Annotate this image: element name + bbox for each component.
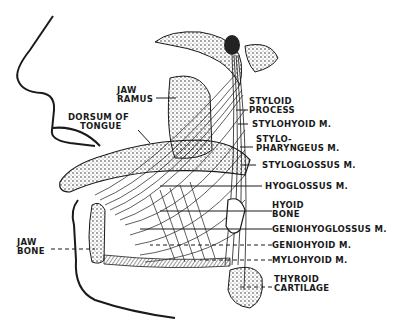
label-line: STYLOGLOSSUS M. [262, 161, 356, 170]
label-hyoglossus: HYOGLOSSUS M. [265, 182, 348, 191]
label-line: TONGUE [68, 122, 129, 131]
label-styloid-process: STYLOID PROCESS [249, 97, 295, 115]
thyroid-cartilage-shape [228, 267, 263, 308]
label-dorsum-of-tongue: DORSUM OF TONGUE [68, 113, 129, 131]
label-line: MYLOHYOID M. [272, 256, 348, 265]
label-line: STYLOHYOID M. [252, 120, 331, 129]
label-line: BONE [272, 210, 304, 219]
label-stylopharyngeus: STYLO- PHARYNGEUS M. [256, 135, 340, 153]
label-hyoid-bone: HYOID BONE [272, 201, 304, 219]
label-line: HYOGLOSSUS M. [265, 182, 348, 191]
label-jaw-bone: JAW BONE [17, 238, 45, 256]
label-mylohyoid: MYLOHYOID M. [272, 256, 348, 265]
label-thyroid-cartilage: THYROID CARTILAGE [274, 275, 329, 293]
label-styloglossus: STYLOGLOSSUS M. [262, 161, 356, 170]
label-line: GENIOHYOID M. [272, 241, 351, 250]
jaw-bone-shape [89, 203, 105, 263]
hyoid-bone-shape [226, 199, 245, 233]
label-line: BONE [17, 247, 45, 256]
label-geniohyoid: GENIOHYOID M. [272, 241, 351, 250]
label-line: RAMUS [117, 95, 153, 104]
label-stylohyoid: STYLOHYOID M. [252, 120, 331, 129]
label-genioglossus: GENIOHYOGLOSSUS M. [272, 225, 387, 234]
label-line: PROCESS [249, 106, 295, 115]
label-jaw-ramus: JAW RAMUS [117, 86, 153, 104]
geniohyoid-band [104, 255, 230, 268]
label-line: CARTILAGE [274, 284, 329, 293]
anatomy-diagram: JAW RAMUS DORSUM OF TONGUE JAW BONE STYL… [0, 0, 411, 328]
label-line: GENIOHYOGLOSSUS M. [272, 225, 387, 234]
label-line: PHARYNGEUS M. [256, 144, 340, 153]
